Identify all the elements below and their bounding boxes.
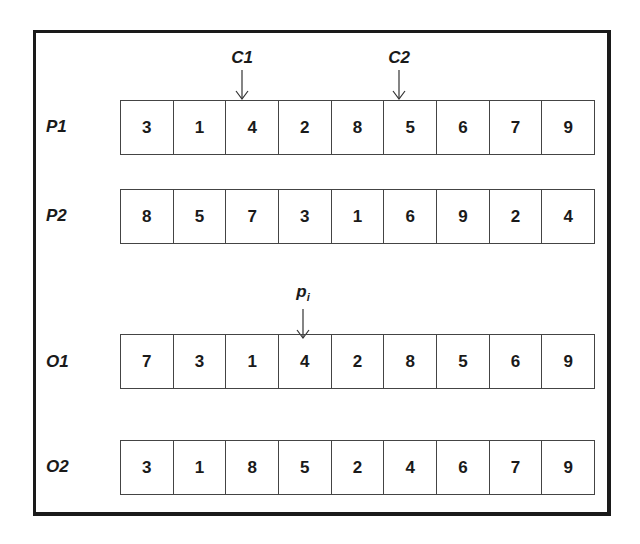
chromosome-p2: 8 5 7 3 1 6 9 2 4 (120, 189, 595, 244)
chromosome-p1: 3 1 4 2 8 5 6 7 9 (120, 100, 595, 155)
cut-point-c2: C2 (379, 48, 419, 100)
gene-cell: 5 (437, 335, 490, 388)
gene-cell: 7 (226, 190, 279, 243)
gene-cell: 4 (542, 190, 595, 243)
row-label-p1: P1 (46, 117, 86, 137)
gene-cell: 3 (121, 101, 174, 154)
row-label-o1: O1 (46, 352, 86, 372)
gene-cell: 7 (490, 441, 543, 494)
insertion-point-pi: pi (283, 282, 323, 339)
gene-cell: 5 (384, 101, 437, 154)
gene-cell: 3 (174, 335, 227, 388)
gene-cell: 9 (437, 190, 490, 243)
gene-cell: 4 (279, 335, 332, 388)
gene-cell: 8 (332, 101, 385, 154)
gene-cell: 2 (332, 441, 385, 494)
gene-cell: 6 (437, 441, 490, 494)
gene-cell: 1 (332, 190, 385, 243)
gene-cell: 8 (226, 441, 279, 494)
gene-cell: 1 (174, 441, 227, 494)
down-arrow-icon (235, 68, 249, 100)
gene-cell: 6 (437, 101, 490, 154)
gene-cell: 2 (279, 101, 332, 154)
pi-label: pi (283, 282, 323, 307)
gene-cell: 1 (226, 335, 279, 388)
cut-point-c1: C1 (222, 48, 262, 100)
gene-cell: 9 (542, 335, 595, 388)
gene-cell: 6 (384, 190, 437, 243)
row-label-p2: P2 (46, 206, 86, 226)
offspring-o1: 7 3 1 4 2 8 5 6 9 (120, 334, 595, 389)
gene-cell: 9 (542, 441, 595, 494)
gene-cell: 6 (490, 335, 543, 388)
gene-cell: 8 (121, 190, 174, 243)
row-label-o2: O2 (46, 457, 86, 477)
gene-cell: 2 (332, 335, 385, 388)
gene-cell: 2 (490, 190, 543, 243)
gene-cell: 5 (174, 190, 227, 243)
gene-cell: 9 (542, 101, 595, 154)
down-arrow-icon (392, 68, 406, 100)
c2-label: C2 (379, 48, 419, 68)
gene-cell: 4 (226, 101, 279, 154)
gene-cell: 7 (490, 101, 543, 154)
gene-cell: 5 (279, 441, 332, 494)
c1-label: C1 (222, 48, 262, 68)
gene-cell: 4 (384, 441, 437, 494)
gene-cell: 3 (279, 190, 332, 243)
gene-cell: 3 (121, 441, 174, 494)
gene-cell: 7 (121, 335, 174, 388)
gene-cell: 1 (174, 101, 227, 154)
offspring-o2: 3 1 8 5 2 4 6 7 9 (120, 440, 595, 495)
gene-cell: 8 (384, 335, 437, 388)
